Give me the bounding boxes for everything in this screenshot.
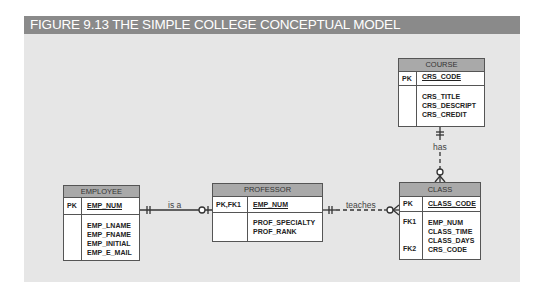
key-label: PK [399, 72, 417, 85]
attribute: CRS_CREDIT [422, 110, 476, 119]
pk-attribute: CLASS_CODE [428, 197, 476, 211]
attribute: EMP_INITIAL [87, 239, 132, 248]
relationship-label-is-a: is a [168, 200, 181, 210]
fk1-label: FK1 [403, 218, 416, 225]
relationship-label-has: has [433, 142, 447, 152]
attribute: EMP_FNAME [87, 230, 132, 239]
attribute: EMP_NUM [428, 218, 474, 227]
entity-employee-attr-row: EMP_LNAME EMP_FNAME EMP_INITIAL EMP_E_MA… [64, 215, 139, 260]
entity-employee[interactable]: EMPLOYEE PK EMP_NUM EMP_LNAME EMP_FNAME … [63, 185, 140, 261]
entity-employee-pk-row: PK EMP_NUM [64, 198, 139, 215]
entity-class-header: CLASS [400, 183, 480, 197]
attribute: CLASS_DAYS [428, 236, 474, 245]
fk2-label: FK2 [403, 245, 416, 252]
attribute: CRS_DESCRIPT [422, 101, 476, 110]
attribute: PROF_SPECIALTY [253, 218, 315, 227]
entity-professor-pk-row: PK,FK1 EMP_NUM [213, 197, 322, 213]
entity-course-pk-row: PK CRS_CODE [399, 72, 484, 86]
optional-circle-icon [387, 207, 393, 213]
entity-course-attr-row: CRS_TITLE CRS_DESCRIPT CRS_CREDIT [399, 86, 484, 126]
entity-course[interactable]: COURSE PK CRS_CODE CRS_TITLE CRS_DESCRIP… [398, 58, 485, 127]
attribute: CLASS_TIME [428, 227, 474, 236]
relationship-label-teaches: teaches [346, 200, 376, 210]
entity-professor-attr-row: PROF_SPECIALTY PROF_RANK [213, 213, 322, 241]
optional-circle-icon [437, 169, 443, 175]
attribute: CRS_TITLE [422, 92, 476, 101]
has-connector [435, 127, 445, 182]
optional-circle-icon [199, 207, 205, 213]
key-label: PK [64, 198, 82, 214]
pk-attribute: EMP_NUM [253, 197, 288, 212]
entity-professor-header: PROFESSOR [213, 184, 322, 197]
attribute: EMP_LNAME [87, 221, 132, 230]
key-label: PK [400, 197, 423, 211]
entity-employee-header: EMPLOYEE [64, 186, 139, 198]
pk-attribute: EMP_NUM [87, 198, 122, 214]
entity-class-pk-row: PK CLASS_CODE [400, 197, 480, 212]
attribute: EMP_E_MAIL [87, 248, 132, 257]
entity-class[interactable]: CLASS PK CLASS_CODE FK1 FK2 EMP_NUM CLAS… [399, 182, 481, 260]
attribute: CRS_CODE [428, 245, 474, 254]
key-label: PK,FK1 [213, 197, 248, 212]
pk-attribute: CRS_CODE [422, 72, 461, 81]
entity-class-attr-row: FK1 FK2 EMP_NUM CLASS_TIME CLASS_DAYS CR… [400, 212, 480, 259]
entity-professor[interactable]: PROFESSOR PK,FK1 EMP_NUM PROF_SPECIALTY … [212, 183, 323, 242]
attribute: PROF_RANK [253, 227, 315, 236]
entity-course-header: COURSE [399, 59, 484, 72]
